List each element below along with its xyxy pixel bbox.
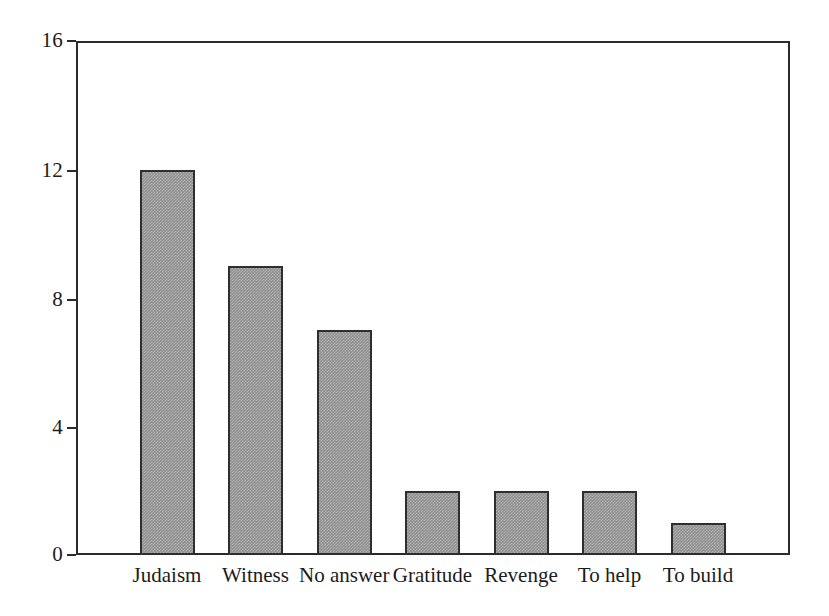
x-tick-label-witness: Witness (211, 562, 301, 588)
x-tick-label-revenge: Revenge (476, 562, 566, 588)
x-tick-label-to-build: To build (653, 562, 743, 588)
x-tick-label-judaism: Judaism (122, 562, 212, 588)
bar-chart: 16 12 8 4 0 Judaism Witness No answer (0, 0, 829, 616)
x-tick-label-gratitude: Gratitude (388, 562, 478, 588)
x-tick-label-to-help: To help (565, 562, 655, 588)
x-tick-label-no-answer: No answer (299, 562, 389, 588)
x-axis: Judaism Witness No answer Gratitude Reve… (0, 0, 829, 616)
